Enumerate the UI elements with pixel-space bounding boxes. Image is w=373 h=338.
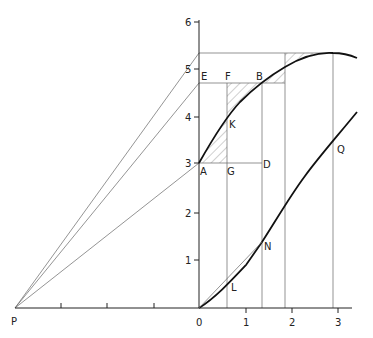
x-tick-label-1: 1	[243, 317, 249, 328]
ray-p-to-e	[15, 83, 199, 308]
point-label-k: K	[229, 119, 236, 130]
y-tick-label-3: 3	[185, 158, 191, 169]
point-label-n: N	[264, 241, 271, 252]
point-label-f: F	[225, 71, 231, 82]
y-tick-label-4: 4	[185, 112, 191, 123]
diagram-canvas: 0 1 2 3 1 2 3 4 5 6 P E F B K A G D Q N …	[0, 0, 373, 338]
x-tick-label-2: 2	[289, 317, 295, 328]
hatched-region-right-upper	[285, 53, 330, 67]
chord-o-n	[199, 242, 262, 308]
y-tick-label-5: 5	[185, 64, 191, 75]
ray-p-to-top	[15, 53, 199, 308]
hatched-region-left-upper	[227, 83, 262, 119]
point-label-b: B	[256, 71, 263, 82]
point-label-e: E	[201, 71, 207, 82]
y-tick-label-1: 1	[185, 255, 191, 266]
point-label-a: A	[200, 166, 207, 177]
x-tick-label-3: 3	[335, 317, 341, 328]
point-label-d: D	[263, 159, 271, 170]
point-label-l: L	[231, 282, 237, 293]
x-tick-label-0: 0	[196, 317, 202, 328]
y-axis-ticks	[194, 22, 199, 260]
point-label-p: P	[11, 316, 17, 327]
y-tick-label-6: 6	[185, 17, 191, 28]
point-label-q: Q	[337, 144, 345, 155]
y-tick-label-2: 2	[185, 208, 191, 219]
ray-p-to-a	[15, 163, 199, 308]
point-label-g: G	[227, 166, 235, 177]
